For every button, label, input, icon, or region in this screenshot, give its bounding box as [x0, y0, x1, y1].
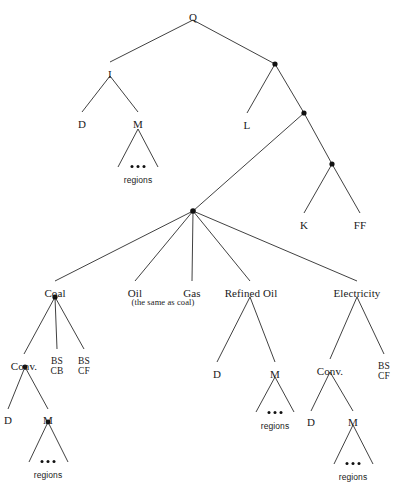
tree-edge: [82, 76, 110, 112]
tree-edge: [334, 425, 353, 464]
label-line: CB: [51, 366, 64, 376]
tree-edge: [110, 76, 138, 112]
tree-node-label-d4: D: [307, 417, 315, 428]
tree-edge: [118, 129, 138, 167]
tree-edge: [250, 297, 275, 362]
tree-edge: [247, 64, 275, 113]
ellipsis-dot: [137, 165, 140, 168]
tree-edge: [353, 425, 373, 464]
tree-node-dot: [329, 161, 334, 166]
ellipsis-icon: [131, 165, 146, 168]
label-line: CF: [378, 371, 390, 381]
tree-node-dot: [190, 208, 196, 214]
tree-node-dot: [272, 61, 277, 66]
tree-node-label-d1: D: [78, 119, 86, 130]
tree-edge: [55, 211, 193, 281]
tree-edge: [193, 211, 357, 281]
edges-group: [8, 20, 384, 464]
ellipsis-dot: [41, 460, 44, 463]
ellipsis-icon: [41, 460, 56, 463]
tree-node-label-regions3: regions: [261, 422, 290, 431]
tree-edge: [330, 297, 357, 359]
ellipsis-dot: [274, 411, 277, 414]
label-line: CF: [78, 366, 90, 376]
tree-node-label-regions1: regions: [124, 176, 153, 185]
tree-node-label-gas: Gas: [183, 288, 200, 299]
tree-edge: [357, 297, 384, 354]
tree-node-label-m3: M: [270, 369, 280, 380]
tree-node-label-bscb: BSCB: [51, 356, 64, 377]
ellipsis-dot: [358, 462, 361, 465]
tree-node-label-k: K: [300, 220, 308, 231]
tree-node-label-m1: M: [133, 119, 143, 130]
tree-edge: [275, 64, 304, 113]
ellipsis-dot: [53, 460, 56, 463]
tree-diagram: QIDMregionsLKFFCoalOil(the same as coal)…: [0, 0, 397, 504]
tree-edge: [332, 164, 360, 213]
tree-node-label-convelec: Conv.: [317, 366, 343, 377]
tree-edge: [55, 297, 84, 349]
tree-node-label-coal: Coal: [44, 288, 65, 299]
tree-edge: [304, 164, 332, 213]
ellipsis-dot: [143, 165, 146, 168]
tree-node-label-d3: D: [213, 369, 221, 380]
tree-edge: [48, 422, 68, 462]
tree-edge: [330, 372, 353, 411]
tree-edge: [193, 211, 250, 281]
tree-node-label-bscf1: BSCF: [78, 356, 90, 377]
tree-edge: [55, 297, 57, 349]
ellipsis-dot: [47, 460, 50, 463]
tree-node-label-m4: M: [348, 417, 358, 428]
tree-edge: [138, 129, 158, 167]
tree-node-label-d2: D: [4, 415, 12, 426]
tree-node-label-electricity: Electricity: [334, 288, 381, 299]
ellipsis-icon: [346, 462, 361, 465]
tree-edge: [193, 20, 275, 64]
tree-node-label-regions2: regions: [34, 471, 63, 480]
label-line: BS: [78, 356, 90, 366]
tree-node-label-m2: M: [43, 415, 53, 426]
tree-edge: [311, 372, 330, 411]
tree-edge: [29, 422, 48, 462]
tree-edge: [8, 367, 25, 409]
tree-edge: [217, 297, 250, 362]
tree-node-label-q: Q: [189, 12, 197, 23]
tree-edge: [304, 113, 332, 164]
tree-edge: [110, 20, 193, 62]
ellipsis-dot: [346, 462, 349, 465]
tree-node-label-bscf2: BSCF: [378, 361, 390, 382]
tree-node-label-l: L: [244, 120, 251, 131]
node-dots-group: [23, 61, 335, 424]
tree-node-label-regions4: regions: [339, 473, 368, 482]
tree-node-label-refinedoil: Refined Oil: [225, 288, 278, 299]
tree-edges-layer: [0, 0, 397, 504]
tree-edge: [275, 377, 294, 412]
tree-edge: [256, 377, 275, 412]
tree-edge: [25, 367, 48, 409]
ellipsis-dot: [352, 462, 355, 465]
label-line: BS: [51, 356, 64, 366]
tree-node-label-convcoal: Conv.: [11, 361, 37, 372]
tree-node-label-ff: FF: [354, 220, 366, 231]
tree-edge: [24, 297, 55, 354]
label-line: BS: [378, 361, 390, 371]
tree-node-label-oilnote: (the same as coal): [132, 298, 195, 307]
tree-edge: [192, 211, 193, 281]
ellipsis-dot: [280, 411, 283, 414]
tree-node-dot: [301, 110, 306, 115]
tree-edge: [135, 211, 193, 281]
ellipsis-dot: [131, 165, 134, 168]
ellipsis-dot: [268, 411, 271, 414]
ellipsis-icon: [268, 411, 283, 414]
tree-node-label-i: I: [108, 69, 112, 80]
